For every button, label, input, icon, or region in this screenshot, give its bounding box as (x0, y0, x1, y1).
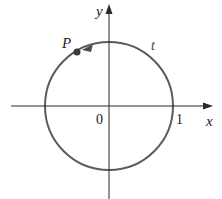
point-p-marker (74, 49, 81, 56)
unit-tick-label: 1 (176, 112, 183, 127)
point-p-label: P (61, 35, 71, 51)
unit-circle-diagram: y x 0 1 P t (0, 0, 222, 199)
y-axis-arrow-icon (106, 4, 113, 14)
x-axis-arrow-icon (203, 103, 213, 110)
origin-label: 0 (96, 112, 103, 127)
y-axis-label: y (94, 3, 103, 19)
x-axis-label: x (205, 113, 213, 129)
arc-length-label: t (151, 38, 156, 53)
